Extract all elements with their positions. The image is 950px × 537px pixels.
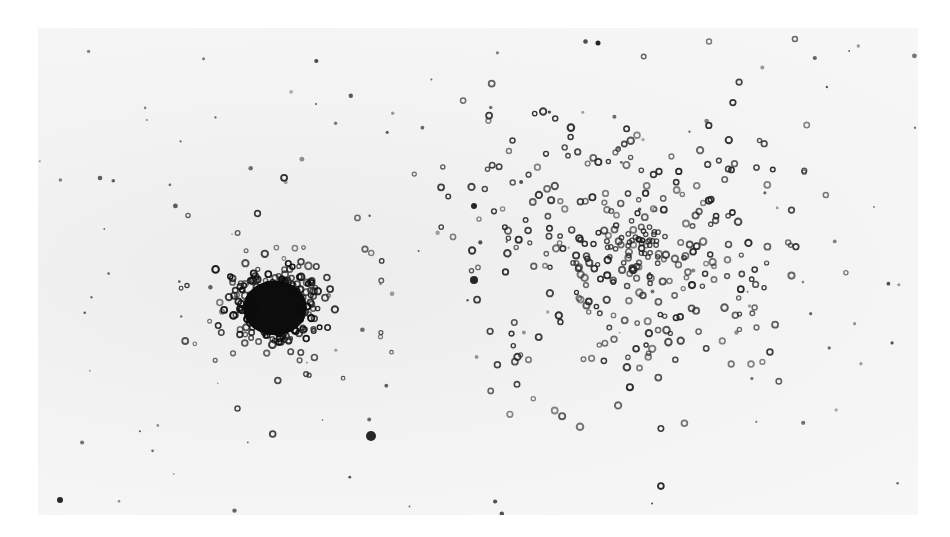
star-field [38,28,918,515]
star-cluster-photo [38,28,918,515]
